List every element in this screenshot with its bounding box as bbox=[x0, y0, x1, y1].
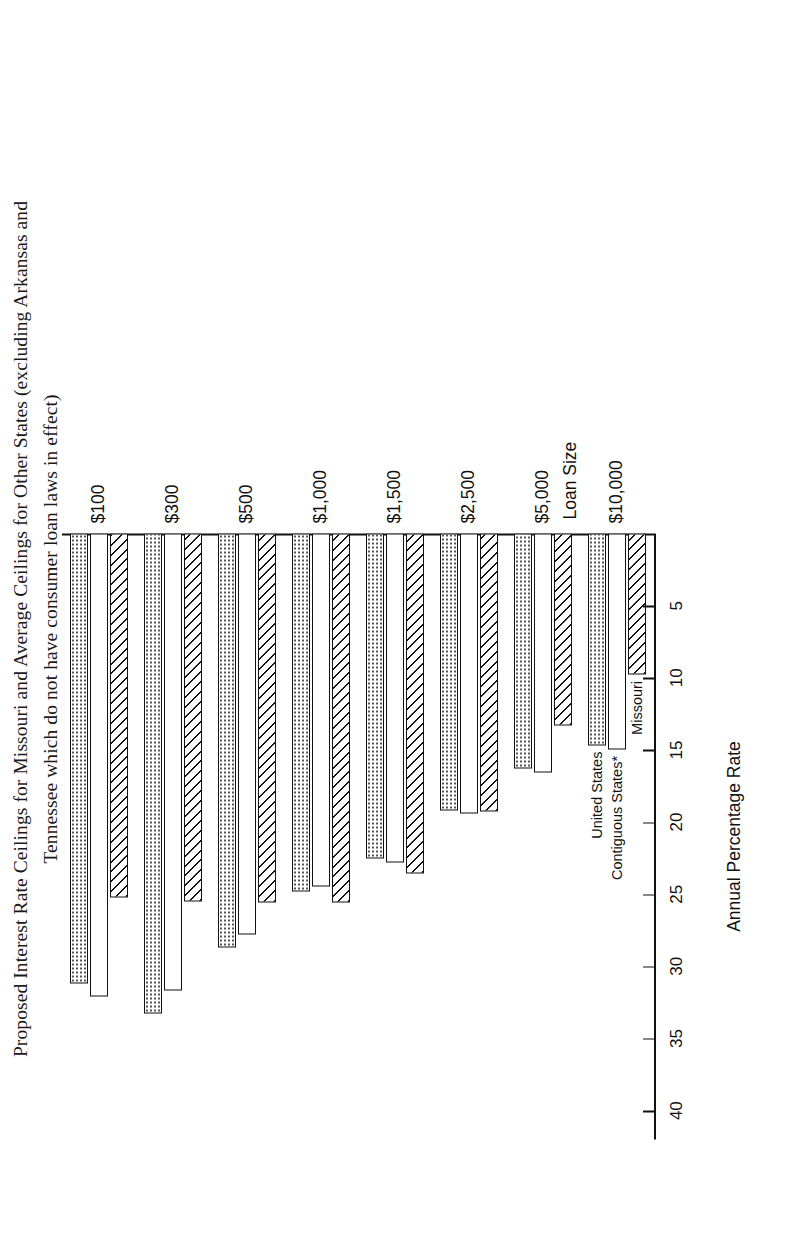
bar-group bbox=[284, 533, 358, 1139]
value-tick-label-25: 25 bbox=[667, 870, 687, 918]
value-tick-label-40: 40 bbox=[667, 1086, 687, 1134]
bar-united-states-100 bbox=[70, 533, 88, 983]
bar-contiguous-states-5000 bbox=[534, 533, 552, 773]
plot-area: 510152025303540 bbox=[62, 533, 654, 1139]
bar-missouri-2500 bbox=[480, 533, 498, 811]
bar-missouri-500 bbox=[258, 533, 276, 902]
category-label-300: $300 bbox=[162, 484, 183, 523]
category-label-500: $500 bbox=[236, 484, 257, 523]
chart-canvas: Proposed Interest Rate Ceilings for Miss… bbox=[0, 0, 786, 1257]
bar-group bbox=[432, 533, 506, 1139]
category-label-5000: $5,000 bbox=[532, 469, 553, 523]
bar-united-states-10000 bbox=[588, 533, 606, 745]
bar-contiguous-states-500 bbox=[238, 533, 256, 934]
bar-missouri-100 bbox=[110, 533, 128, 897]
bar-missouri-1000 bbox=[332, 533, 350, 902]
bar-contiguous-states-1500 bbox=[386, 533, 404, 862]
bar-contiguous-states-1000 bbox=[312, 533, 330, 887]
value-tick-label-10: 10 bbox=[667, 653, 687, 701]
series-annotation-contiguous-states: Contiguous States* bbox=[609, 755, 625, 939]
category-label-10000: $10,000 bbox=[606, 460, 627, 523]
bar-group bbox=[62, 533, 136, 1139]
bar-contiguous-states-300 bbox=[164, 533, 182, 990]
bar-missouri-1500 bbox=[406, 533, 424, 874]
bar-united-states-5000 bbox=[514, 533, 532, 768]
chart-title: Proposed Interest Rate Ceilings for Miss… bbox=[6, 0, 66, 1257]
value-tick-label-30: 30 bbox=[667, 942, 687, 990]
value-tick-label-35: 35 bbox=[667, 1014, 687, 1062]
category-label-2500: $2,500 bbox=[458, 469, 479, 523]
chart-title-line-1: Proposed Interest Rate Ceilings for Miss… bbox=[6, 0, 36, 1257]
bar-group bbox=[210, 533, 284, 1139]
bar-united-states-2500 bbox=[440, 533, 458, 810]
category-label-100: $100 bbox=[88, 484, 109, 523]
bar-contiguous-states-2500 bbox=[460, 533, 478, 813]
series-annotation-missouri: Missouri bbox=[629, 680, 645, 864]
bar-united-states-1500 bbox=[366, 533, 384, 858]
bar-missouri-10000 bbox=[628, 533, 646, 674]
value-axis-line bbox=[654, 533, 656, 1139]
series-annotation-united-states: United States bbox=[589, 751, 605, 935]
bar-united-states-300 bbox=[144, 533, 162, 1013]
value-tick-5 bbox=[643, 605, 654, 606]
bar-missouri-5000 bbox=[554, 533, 572, 725]
bar-contiguous-states-100 bbox=[90, 533, 108, 996]
bar-united-states-500 bbox=[218, 533, 236, 947]
value-tick-10 bbox=[643, 677, 654, 678]
bar-contiguous-states-10000 bbox=[608, 533, 626, 749]
value-tick-35 bbox=[643, 1038, 654, 1039]
bar-group bbox=[506, 533, 580, 1139]
value-tick-40 bbox=[643, 1110, 654, 1111]
value-tick-label-15: 15 bbox=[667, 725, 687, 773]
value-tick-label-5: 5 bbox=[667, 581, 687, 629]
category-label-1500: $1,500 bbox=[384, 469, 405, 523]
value-tick-label-20: 20 bbox=[667, 798, 687, 846]
category-label-1000: $1,000 bbox=[310, 469, 331, 523]
bar-group bbox=[358, 533, 432, 1139]
rotated-page-wrapper: Proposed Interest Rate Ceilings for Miss… bbox=[0, 0, 786, 1257]
bar-missouri-300 bbox=[184, 533, 202, 901]
value-axis-title: Annual Percentage Rate bbox=[724, 533, 745, 1139]
bar-group bbox=[136, 533, 210, 1139]
bar-united-states-1000 bbox=[292, 533, 310, 891]
value-tick-30 bbox=[643, 966, 654, 967]
category-axis-title: Loan Size bbox=[560, 441, 581, 519]
value-tick-25 bbox=[643, 894, 654, 895]
